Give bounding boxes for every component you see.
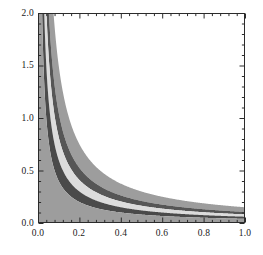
y-tick-label-0_5: 0.5 (8, 166, 34, 176)
plot-regions (38, 0, 245, 223)
x-tick-label-0_2: 0.2 (66, 228, 92, 238)
y-tick-label-1_5: 1.5 (8, 60, 34, 70)
y-tick-label-2: 2.0 (8, 8, 34, 18)
x-tick-label-0_8: 0.8 (191, 228, 217, 238)
chart-container: 2.0 1.5 1.0 0.5 0.0 0.0 0.2 0.4 0.6 0.8 … (0, 0, 263, 255)
reciprocal-area-chart (0, 0, 263, 255)
x-tick-label-0_6: 0.6 (149, 228, 175, 238)
y-tick-label-0: 0.0 (8, 218, 34, 228)
x-tick-label-0_4: 0.4 (108, 228, 134, 238)
y-tick-label-1: 1.0 (8, 113, 34, 123)
x-tick-label-1: 1.0 (232, 228, 258, 238)
region-lower-dark-band (38, 0, 245, 219)
x-tick-label-0: 0.0 (25, 228, 51, 238)
